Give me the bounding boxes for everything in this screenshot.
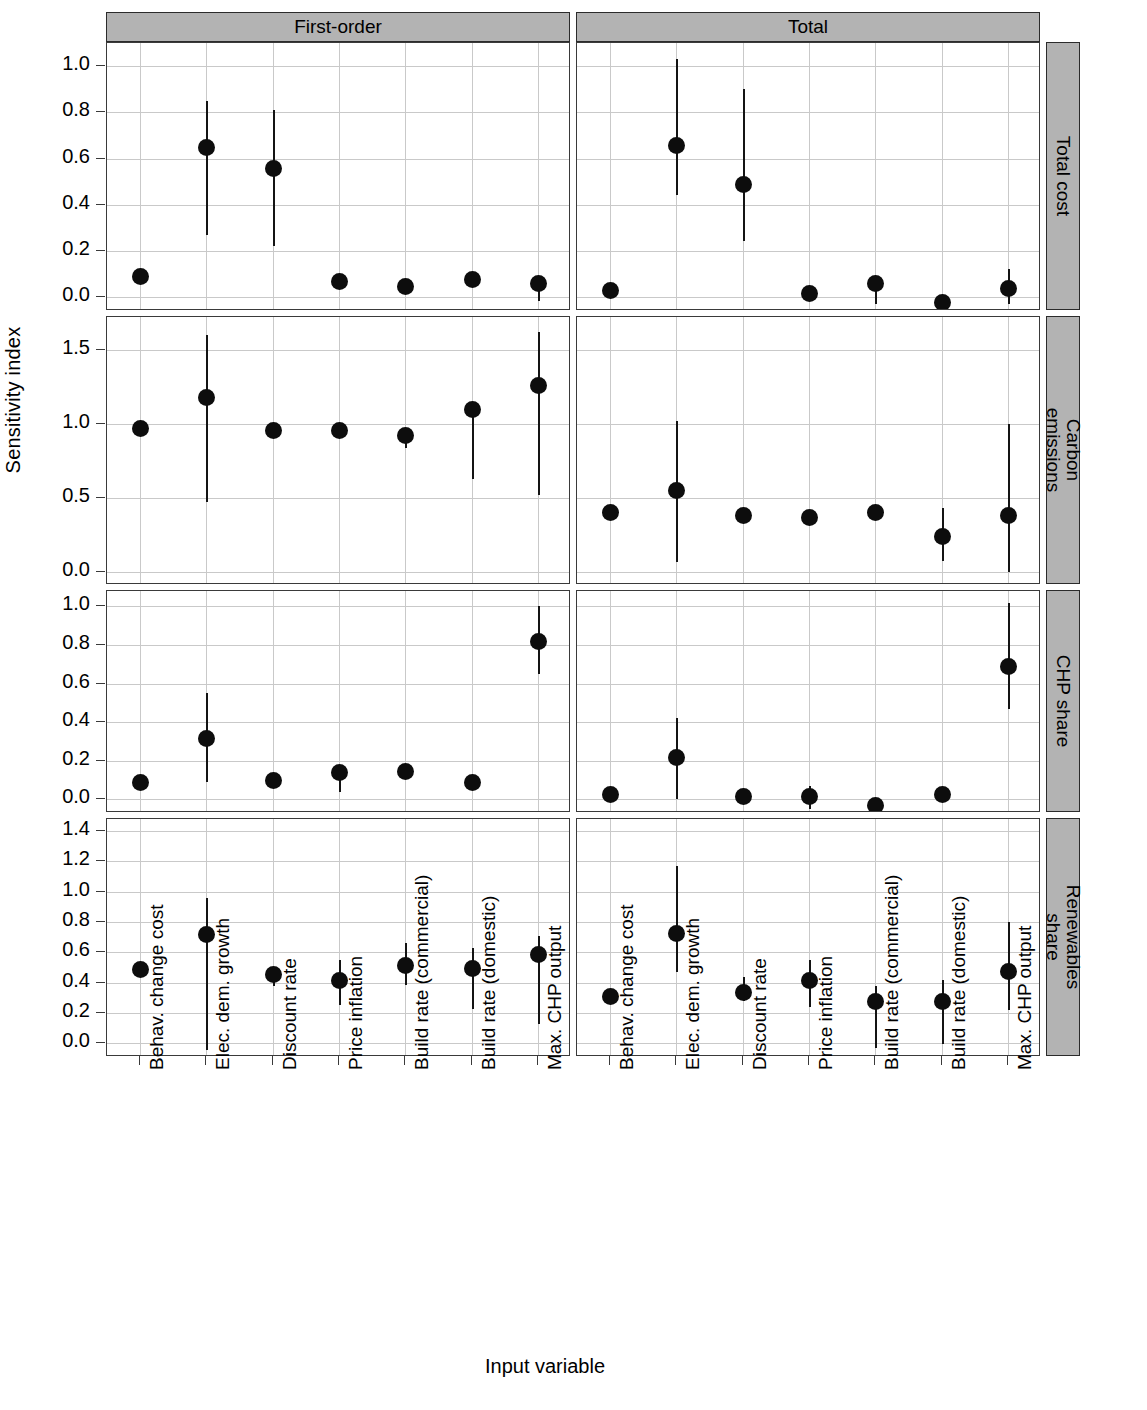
- error-bar: [472, 948, 474, 1009]
- gridline-vertical: [405, 317, 406, 583]
- gridline-vertical: [809, 317, 810, 583]
- y-tick-label: 1.0: [0, 878, 90, 901]
- y-tick-mark: [96, 982, 105, 983]
- error-bar: [472, 409, 474, 479]
- x-tick-label: Behav. change cost: [616, 905, 638, 1070]
- y-tick-mark: [96, 571, 105, 572]
- y-tick-mark: [96, 296, 105, 297]
- x-tick-mark: [205, 1056, 206, 1065]
- y-tick-label: 0.2: [0, 747, 90, 770]
- x-tick-mark: [139, 1056, 140, 1065]
- data-point: [132, 268, 149, 285]
- y-tick-mark: [96, 497, 105, 498]
- gridline-vertical: [610, 591, 611, 811]
- y-tick-mark: [96, 830, 105, 831]
- gridline-horizontal: [107, 297, 569, 298]
- y-tick-mark: [96, 204, 105, 205]
- y-tick-mark: [96, 721, 105, 722]
- data-point: [397, 763, 414, 780]
- panel-total-cost-total: [576, 42, 1040, 310]
- data-point: [464, 774, 481, 791]
- y-tick-label: 1.0: [0, 410, 90, 433]
- data-point: [602, 786, 619, 803]
- data-point: [331, 273, 348, 290]
- y-tick-mark: [96, 860, 105, 861]
- data-point: [464, 271, 481, 288]
- x-tick-label: Discount rate: [749, 958, 771, 1070]
- gridline-horizontal: [577, 498, 1039, 499]
- x-tick-mark: [808, 1056, 809, 1065]
- data-point: [1000, 507, 1017, 524]
- y-tick-mark: [96, 423, 105, 424]
- data-point: [735, 176, 752, 193]
- data-point: [668, 482, 685, 499]
- y-tick-label: 1.0: [0, 52, 90, 75]
- data-point: [934, 528, 951, 545]
- data-point: [602, 282, 619, 299]
- y-tick-label: 1.5: [0, 336, 90, 359]
- x-tick-mark: [338, 1056, 339, 1065]
- gridline-horizontal: [107, 831, 569, 832]
- data-point: [265, 422, 282, 439]
- y-tick-label: 0.5: [0, 484, 90, 507]
- y-tick-label: 0.6: [0, 145, 90, 168]
- data-point: [801, 509, 818, 526]
- gridline-horizontal: [577, 606, 1039, 607]
- gridline-vertical: [140, 819, 141, 1055]
- y-tick-label: 0.4: [0, 969, 90, 992]
- gridline-horizontal: [107, 861, 569, 862]
- data-point: [934, 294, 951, 310]
- error-bar: [676, 59, 678, 195]
- error-bar: [676, 866, 678, 972]
- y-tick-label: 0.8: [0, 98, 90, 121]
- data-point: [265, 160, 282, 177]
- gridline-vertical: [405, 43, 406, 309]
- y-tick-mark: [96, 951, 105, 952]
- y-tick-mark: [96, 891, 105, 892]
- data-point: [198, 730, 215, 747]
- gridline-horizontal: [577, 684, 1039, 685]
- data-point: [530, 633, 547, 650]
- gridline-vertical: [942, 43, 943, 309]
- y-tick-label: 0.8: [0, 631, 90, 654]
- y-tick-mark: [96, 65, 105, 66]
- x-tick-label: Elec. dem. growth: [212, 918, 234, 1070]
- row-strip-chp-share: CHP share: [1046, 590, 1080, 812]
- panel-chp-share-total: [576, 590, 1040, 812]
- panel-total-cost-first-order: [106, 42, 570, 310]
- x-tick-label: Discount rate: [279, 958, 301, 1070]
- y-tick-label: 0.0: [0, 283, 90, 306]
- error-bar: [206, 898, 208, 1050]
- gridline-horizontal: [107, 799, 569, 800]
- y-tick-mark: [96, 1012, 105, 1013]
- y-tick-mark: [96, 760, 105, 761]
- x-tick-label: Behav. change cost: [146, 905, 168, 1070]
- x-axis-title: Input variable: [0, 1355, 1090, 1378]
- gridline-vertical: [875, 43, 876, 309]
- gridline-horizontal: [107, 112, 569, 113]
- panel-carbon-emissions-total: [576, 316, 1040, 584]
- x-tick-mark: [471, 1056, 472, 1065]
- data-point: [397, 278, 414, 295]
- y-tick-mark: [96, 158, 105, 159]
- gridline-horizontal: [577, 572, 1039, 573]
- data-point: [265, 772, 282, 789]
- gridline-horizontal: [577, 66, 1039, 67]
- error-bar: [942, 980, 944, 1044]
- y-tick-label: 0.8: [0, 908, 90, 931]
- x-tick-label: Elec. dem. growth: [682, 918, 704, 1070]
- error-bar: [273, 110, 275, 246]
- gridline-horizontal: [107, 350, 569, 351]
- panel-grid: First-orderTotalTotal costCarbon emissio…: [106, 12, 1074, 1080]
- data-point: [801, 285, 818, 302]
- row-strip-renewables-share: Renewables share: [1046, 818, 1080, 1056]
- gridline-vertical: [538, 43, 539, 309]
- y-tick-label: 0.0: [0, 558, 90, 581]
- data-point: [132, 420, 149, 437]
- gridline-vertical: [809, 43, 810, 309]
- data-point: [530, 377, 547, 394]
- gridline-horizontal: [107, 572, 569, 573]
- data-point: [198, 389, 215, 406]
- x-tick-label: Price inflation: [815, 956, 837, 1070]
- data-point: [735, 788, 752, 805]
